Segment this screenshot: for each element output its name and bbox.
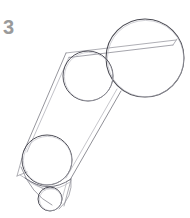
canvas-background [0,0,190,218]
sketch-drawing [0,0,190,218]
sketch-canvas: 3 [0,0,190,218]
step-number-label: 3 [3,17,14,37]
